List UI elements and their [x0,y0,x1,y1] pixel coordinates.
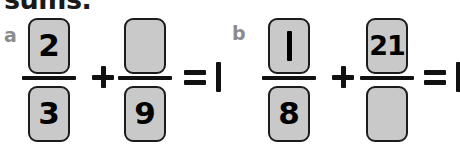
fraction-bar-b-f1 [262,76,316,80]
part-label-a: a [4,26,17,45]
answer-box-b-f1-denominator-value: 8 [278,98,300,129]
fraction-bar-a-f1 [22,76,76,80]
answer-box-a-f1-numerator[interactable]: 2 [28,18,70,74]
result-value-a [216,62,221,92]
fraction-bar-a-f2 [118,76,172,80]
fraction-bar-b-f2 [360,76,414,80]
clipped-heading-text: sums. [4,0,91,15]
answer-box-b-f2-numerator-value: 21 [369,32,405,59]
result-value-b [456,62,460,92]
worksheet-canvas: sums. a 2 3 9 b 8 21 [0,0,460,144]
answer-box-a-f2-numerator[interactable] [124,18,166,74]
answer-box-a-f2-denominator-value: 9 [134,98,156,129]
equals-operator-a [184,70,206,84]
equals-operator-b [424,70,446,84]
answer-box-a-f2-denominator[interactable]: 9 [124,86,166,142]
answer-box-a-f1-numerator-value: 2 [38,30,60,61]
plus-operator-a [92,66,114,88]
answer-box-a-f1-denominator[interactable]: 3 [28,86,70,142]
answer-box-b-f1-numerator-value [287,31,292,61]
answer-box-b-f2-denominator[interactable] [366,86,408,142]
answer-box-a-f1-denominator-value: 3 [38,98,60,129]
answer-box-b-f2-numerator[interactable]: 21 [366,18,408,74]
answer-box-b-f1-numerator[interactable] [268,18,310,74]
part-label-b: b [232,24,246,43]
plus-operator-b [332,66,354,88]
answer-box-b-f1-denominator[interactable]: 8 [268,86,310,142]
